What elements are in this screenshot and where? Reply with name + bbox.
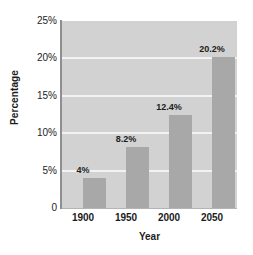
y-tick-label-15: 15%	[17, 90, 57, 101]
bar-1900[interactable]	[83, 178, 106, 208]
x-tick-label-2000: 2000	[146, 212, 192, 223]
x-axis-title: Year	[62, 231, 237, 242]
bar-value-label-1900: 4%	[60, 165, 106, 175]
y-tick-label-10: 10%	[17, 127, 57, 138]
bar-value-label-1950: 8.2%	[103, 134, 149, 144]
y-tick-label-0: 0	[17, 202, 57, 213]
bar-value-label-2000: 12.4%	[146, 102, 192, 112]
bar-2000[interactable]	[169, 115, 192, 208]
bar-value-label-2050: 20.2%	[189, 44, 235, 54]
x-tick-label-1950: 1950	[103, 212, 149, 223]
bar-chart-figure: Percentage 25% 20% 15% 10% 5% 0 4% 8.2% …	[0, 0, 253, 255]
bar-1950[interactable]	[126, 147, 149, 208]
bar-2050[interactable]	[212, 57, 235, 208]
gridline-15	[62, 95, 237, 97]
x-tick-label-2050: 2050	[189, 212, 235, 223]
gridline-20	[62, 57, 237, 59]
y-tick-label-5: 5%	[17, 165, 57, 176]
y-tick-label-25: 25%	[17, 15, 57, 26]
chart-title-cutoff	[38, 0, 218, 3]
x-tick-label-1900: 1900	[60, 212, 106, 223]
x-axis-baseline	[62, 208, 237, 209]
y-tick-label-20: 20%	[17, 52, 57, 63]
y-axis-tick-labels: 25% 20% 15% 10% 5% 0	[16, 0, 57, 255]
gridline-10	[62, 132, 237, 134]
